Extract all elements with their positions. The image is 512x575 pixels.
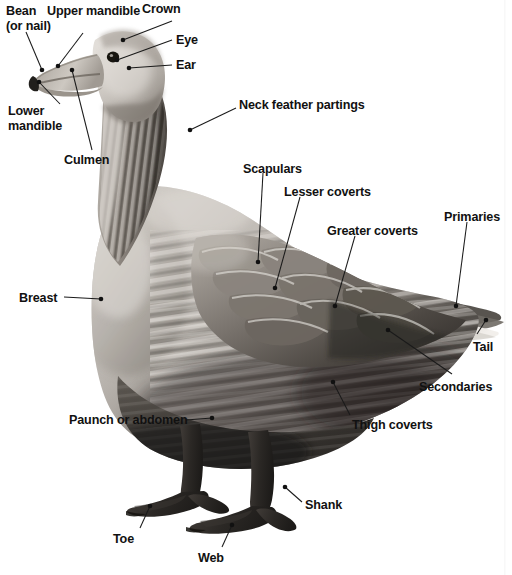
label-scapulars-line1: Scapulars (243, 162, 302, 176)
leader-toe-anchor-dot (148, 504, 153, 509)
leader-primaries-anchor-dot (454, 304, 459, 309)
label-bean-line1: Bean (6, 4, 36, 18)
label-lower-mandible-line2: mandible (8, 119, 62, 133)
label-primaries-line1: Primaries (444, 210, 500, 224)
label-primaries: Primaries (444, 210, 500, 225)
label-neck-feather-partings: Neck feather partings (239, 98, 365, 113)
leader-upper-mandible-anchor-dot (56, 64, 61, 69)
label-breast: Breast (19, 291, 57, 306)
anatomy-figure: Bean(or nail)Upper mandibleCrownEyeEarLo… (0, 0, 512, 575)
leader-secondaries (388, 330, 452, 374)
leader-neck-feather-partings (190, 108, 236, 130)
leader-culmen-anchor-dot (70, 68, 75, 73)
leader-thigh-coverts (333, 382, 350, 415)
leader-thigh-coverts-anchor-dot (331, 380, 336, 385)
label-ear: Ear (176, 58, 196, 73)
leader-crown-anchor-dot (121, 38, 126, 43)
label-web: Web (198, 551, 224, 566)
label-neck-feather-partings-line1: Neck feather partings (239, 98, 365, 112)
leader-lower-mandible-anchor-dot (37, 80, 42, 85)
label-culmen: Culmen (64, 153, 109, 168)
leader-shank-anchor-dot (283, 485, 288, 490)
label-tail: Tail (473, 340, 493, 355)
label-breast-line1: Breast (19, 291, 57, 305)
leader-line-overlay (0, 0, 512, 575)
label-eye: Eye (176, 33, 198, 48)
leader-tail (477, 320, 486, 334)
leader-greater-coverts-anchor-dot (333, 304, 338, 309)
leader-eye (117, 40, 172, 60)
leader-ear (129, 65, 172, 68)
leader-breast-anchor-dot (99, 297, 104, 302)
label-shank: Shank (305, 498, 342, 513)
leader-upper-mandible (58, 33, 83, 66)
label-crown: Crown (142, 2, 180, 17)
label-ear-line1: Ear (176, 58, 196, 72)
label-toe: Toe (113, 532, 134, 547)
label-shank-line1: Shank (305, 498, 342, 512)
leader-neck-feather-partings-anchor-dot (188, 128, 193, 133)
label-web-line1: Web (198, 551, 224, 565)
label-bean-line2: (or nail) (6, 19, 51, 33)
label-toe-line1: Toe (113, 532, 134, 546)
leader-ear-anchor-dot (127, 66, 132, 71)
leader-tail-anchor-dot (484, 318, 489, 323)
label-upper-mandible-line1: Upper mandible (47, 4, 140, 18)
leader-breast (64, 297, 101, 299)
label-scapulars: Scapulars (243, 162, 302, 177)
label-crown-line1: Crown (142, 2, 180, 16)
label-greater-coverts-line1: Greater coverts (327, 224, 418, 238)
leader-lesser-coverts-anchor-dot (273, 286, 278, 291)
label-tail-line1: Tail (473, 340, 493, 354)
leader-culmen (72, 70, 92, 150)
leader-web-anchor-dot (230, 523, 235, 528)
leader-scapulars-anchor-dot (256, 260, 261, 265)
leader-greater-coverts (335, 236, 355, 306)
page-edge (504, 0, 506, 575)
label-greater-coverts: Greater coverts (327, 224, 418, 239)
label-paunch-or-abdomen: Paunch or abdomen (69, 413, 188, 428)
leader-scapulars (258, 173, 263, 262)
label-eye-line1: Eye (176, 33, 198, 47)
leader-bean (26, 32, 42, 70)
label-lesser-coverts-line1: Lesser coverts (284, 185, 371, 199)
leader-lesser-coverts (275, 197, 300, 288)
label-lower-mandible-line1: Lower (8, 104, 44, 118)
label-lower-mandible: Lowermandible (8, 104, 62, 133)
leader-primaries (456, 222, 467, 306)
label-lesser-coverts: Lesser coverts (284, 185, 371, 200)
leader-secondaries-anchor-dot (386, 328, 391, 333)
leader-paunch-or-abdomen-anchor-dot (210, 416, 215, 421)
label-secondaries-line1: Secondaries (419, 380, 492, 394)
label-bean: Bean(or nail) (6, 4, 51, 33)
label-thigh-coverts-line1: Thigh coverts (352, 418, 433, 432)
leader-toe (140, 506, 150, 528)
leader-web (222, 525, 232, 547)
leader-crown (123, 21, 172, 40)
leader-paunch-or-abdomen (186, 418, 212, 420)
leader-shank (285, 487, 302, 502)
label-thigh-coverts: Thigh coverts (352, 418, 433, 433)
label-secondaries: Secondaries (419, 380, 492, 395)
leader-eye-anchor-dot (115, 58, 120, 63)
label-culmen-line1: Culmen (64, 153, 109, 167)
leader-bean-anchor-dot (40, 68, 45, 73)
label-paunch-or-abdomen-line1: Paunch or abdomen (69, 413, 188, 427)
leader-lower-mandible (39, 82, 60, 104)
label-upper-mandible: Upper mandible (47, 4, 140, 19)
